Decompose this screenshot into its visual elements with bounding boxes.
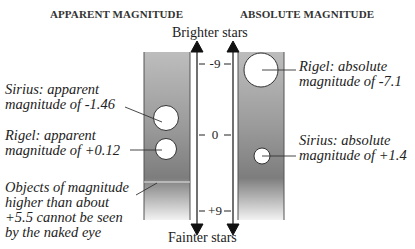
tick-plus-9: +9 [208, 203, 222, 218]
down-arrow-left-icon [191, 224, 203, 235]
down-arrow-right-icon [227, 224, 239, 235]
up-arrow-right-icon [227, 41, 239, 52]
sirius-apparent-circle [154, 106, 179, 131]
rigel-absolute-note: Rigel: absolute magnitude of -7.1 [299, 59, 402, 89]
up-arrow-left-icon [191, 41, 203, 52]
absolute-magnitude-panel [238, 52, 284, 220]
rigel-apparent-circle [156, 139, 177, 160]
rigel-apparent-note: Rigel: apparent magnitude of +0.12 [5, 128, 120, 158]
naked-eye-note: Objects of magnitude higher than about +… [5, 180, 129, 240]
sirius-absolute-note: Sirius: absolute magnitude of +1.4 [299, 133, 407, 163]
apparent-magnitude-panel [144, 52, 190, 220]
tick-0: 0 [212, 127, 219, 142]
tick-minus-9: -9 [210, 56, 221, 71]
sirius-apparent-note: Sirius: apparent magnitude of -1.46 [5, 82, 115, 112]
